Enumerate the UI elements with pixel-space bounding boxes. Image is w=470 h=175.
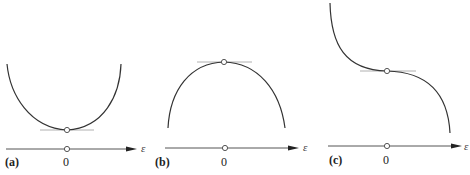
axis-label-c: ε	[464, 140, 469, 152]
arrow-head-icon	[126, 147, 137, 152]
arrow-head-icon	[288, 146, 299, 151]
panel-label-c: (c)	[329, 153, 342, 167]
origin-label-c: 0	[383, 153, 389, 167]
origin-label-a: 0	[63, 155, 69, 169]
panel-a: ε (a) 0	[5, 64, 146, 169]
origin-label-b: 0	[221, 155, 227, 169]
equilibrium-point-a	[64, 127, 69, 132]
diagram-canvas: ε (a) 0 ε (b) 0 ε (c) 0	[0, 0, 470, 175]
arrow-head-icon	[451, 144, 462, 149]
origin-point-a	[64, 146, 69, 151]
panel-label-b: (b)	[155, 155, 170, 169]
equilibrium-point-b	[221, 59, 226, 64]
axis-label-b: ε	[303, 141, 308, 153]
curve-a-convex	[7, 64, 121, 130]
axis-label-a: ε	[141, 142, 146, 154]
panel-c: ε (c) 0	[328, 3, 469, 167]
curve-b-concave	[168, 62, 285, 128]
origin-point-b	[222, 145, 227, 150]
origin-point-c	[384, 143, 389, 148]
panel-b: ε (b) 0	[155, 59, 308, 169]
equilibrium-point-c	[384, 68, 389, 73]
panel-label-a: (a)	[5, 155, 19, 169]
curve-c-inflection	[330, 3, 450, 133]
